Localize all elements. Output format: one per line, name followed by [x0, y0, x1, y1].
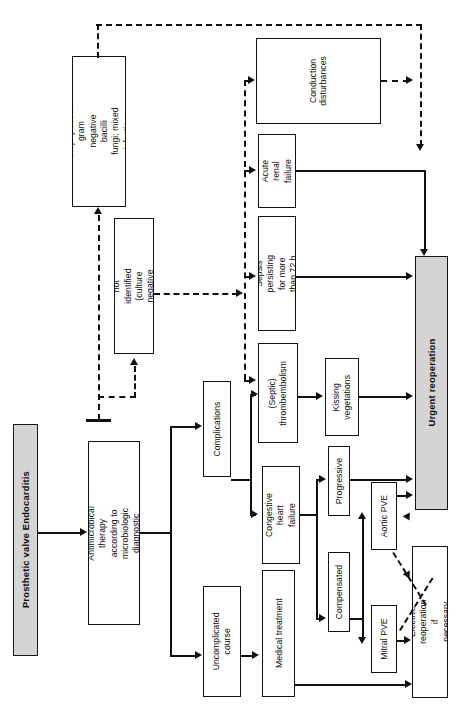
urgent-reoperation-label: Urgent reoperation	[426, 339, 437, 427]
edge-complications-split	[250, 394, 252, 516]
arrowhead-renal-urgent	[420, 249, 428, 256]
node-prosthetic-valve-endocarditis[interactable]: Prosthetic valve Endocarditis	[13, 424, 38, 656]
node-medical-treatment[interactable]: Medical treatment	[262, 570, 295, 697]
elective-line-2: if necessary	[430, 602, 448, 642]
edge-kissing-urgent	[359, 396, 408, 398]
tbar-therapy-input	[86, 419, 111, 422]
sepsis-line-2: for more than 72 h	[277, 255, 296, 292]
arrowhead-chf	[251, 510, 258, 518]
node-congestive-heart-failure[interactable]: Congestive heart failure	[262, 466, 300, 564]
arrowhead-compensated	[319, 614, 326, 622]
edge-compensated-split	[362, 516, 364, 640]
arrowhead-therapy	[80, 528, 87, 536]
node-complications[interactable]: Complications	[203, 381, 231, 477]
arrowhead-sepsis	[249, 272, 256, 280]
edge-therapy-trunk	[140, 532, 172, 534]
arrowhead-medical	[252, 651, 259, 659]
edge-renal-out	[296, 170, 425, 172]
edge-progressive-urgent	[350, 479, 408, 481]
arrowhead-culture-spine	[236, 289, 243, 297]
edge-renal-down	[424, 170, 426, 250]
medical-treatment-label: Medical treatment	[273, 599, 283, 669]
node-aortic-pve[interactable]: Aortic PVE	[371, 482, 397, 550]
therapy-line-2: according to microbiologic	[108, 507, 129, 558]
uncomplicated-line-2: course	[222, 628, 232, 654]
dashed-elbow-culture-up	[134, 366, 136, 398]
node-compensated[interactable]: Compensated	[328, 552, 350, 632]
dashed-feedback-left-down	[97, 24, 99, 58]
arrowhead-top-rail-urgent	[416, 144, 424, 151]
chf-line-2: heart failure	[275, 503, 296, 527]
dashed-feedback-top	[96, 24, 422, 26]
node-progressive[interactable]: Progressive	[328, 446, 350, 516]
mitral-pve-label: Mitral PVE	[379, 618, 389, 659]
dashed-top-rail-down	[420, 24, 422, 146]
kissing-line-1: Kissing	[331, 383, 341, 411]
renal-line-1: Acute renal	[260, 160, 281, 182]
sepsis-line-1: Sepsis persisting	[258, 255, 276, 293]
dashed-elbow-culture	[98, 396, 136, 398]
arrowhead-kissing	[316, 392, 323, 400]
arrowhead-sepsis-urgent	[406, 272, 413, 280]
node-antimicrobial-therapy[interactable]: Antimicrobical therapy according to micr…	[88, 441, 140, 625]
edge-complications-trunk	[231, 479, 252, 481]
node-septic-thrombembolism[interactable]: (Septic) thrombembolism	[258, 343, 298, 443]
edge-medical-elective	[295, 684, 407, 686]
arrowhead-progressive	[319, 475, 326, 483]
arrowhead-medical-elective	[405, 680, 412, 688]
dashed-culture-negative-out	[154, 293, 238, 295]
node-mitral-pve[interactable]: Mitral PVE	[371, 605, 397, 673]
node-uncomplicated-course[interactable]: Uncomplicated course	[203, 586, 241, 697]
node-organisms[interactable]: Staphylococci gram negative bacilli fung…	[72, 56, 126, 207]
dashed-organisms-down	[98, 215, 100, 420]
flowchart-canvas: Prosthetic valve Endocarditis Antimicrob…	[0, 0, 460, 707]
renal-line-2: failure	[283, 159, 293, 183]
kissing-line-2: vegetations	[342, 375, 352, 420]
node-echo-findings[interactable]: Vegetations detected by echo (TEE) Condu…	[256, 38, 381, 124]
aortic-pve-label: Aortic PVE	[379, 495, 389, 537]
echo-line-5: disturbances	[319, 56, 329, 106]
edge-sepsis-urgent	[296, 276, 408, 278]
arrowhead-elbow-culture	[130, 358, 138, 365]
culture-negative-line-2: (culture negative PVE)	[134, 269, 154, 302]
chf-line-1: Congestive	[264, 493, 274, 537]
edge-to-uncomplicated	[170, 655, 196, 657]
node-sepsis-persisting[interactable]: Sepsis persisting for more than 72 h	[258, 216, 296, 331]
edge-chf-split	[316, 479, 318, 620]
edge-thromb-kissing	[298, 396, 317, 398]
node-acute-renal-failure[interactable]: Acute renal failure	[258, 134, 296, 208]
edge-therapy-split	[170, 426, 172, 656]
arrowhead-mitral-to-urgent	[403, 510, 413, 520]
thromb-line-1: (Septic)	[267, 378, 277, 408]
arrowhead-thromb-dashed	[249, 376, 256, 384]
arrowhead-complications	[195, 422, 202, 430]
complications-label: Complications	[212, 401, 222, 456]
node-label: Prosthetic valve Endocarditis	[20, 471, 31, 608]
dashed-complication-spine	[244, 80, 246, 380]
echo-line-4: Conduction	[308, 59, 318, 103]
edge-start-therapy	[38, 532, 81, 534]
arrowhead-aortic	[358, 512, 366, 519]
arrowhead-thrombembolism	[251, 390, 258, 398]
arrowhead-kissing-urgent	[406, 392, 413, 400]
dashed-echo-out	[381, 80, 409, 82]
arrowhead-echo	[248, 76, 255, 84]
node-elective-reoperation[interactable]: Elective reoperation if necessary	[412, 546, 448, 698]
progressive-label: Progressive	[334, 458, 344, 504]
arrowhead-mitral	[358, 637, 366, 644]
therapy-line-3: diagnostic	[131, 513, 140, 553]
node-urgent-reoperation[interactable]: Urgent reoperation	[415, 256, 448, 510]
organisms-line-3: fungi; mixed infections	[110, 108, 126, 155]
arrowhead-echo-rail	[406, 76, 413, 84]
uncomplicated-line-1: Uncomplicated	[211, 613, 221, 671]
culture-negative-line-1: Organism not identified	[114, 267, 133, 305]
thromb-line-2: thrombembolism	[278, 361, 288, 426]
therapy-line-1: Antimicrobical therapy	[88, 506, 107, 561]
node-kissing-vegetations[interactable]: Kissing vegetations	[325, 358, 359, 436]
arrowhead-renal	[249, 166, 256, 174]
arrowhead-uncomplicated	[195, 651, 202, 659]
compensated-label: Compensated	[334, 565, 344, 619]
arrowhead-progressive-urgent	[406, 475, 413, 483]
arrowhead-mitral-elective	[404, 636, 411, 644]
node-culture-negative-pve[interactable]: Organism not identified (culture negativ…	[114, 218, 154, 354]
